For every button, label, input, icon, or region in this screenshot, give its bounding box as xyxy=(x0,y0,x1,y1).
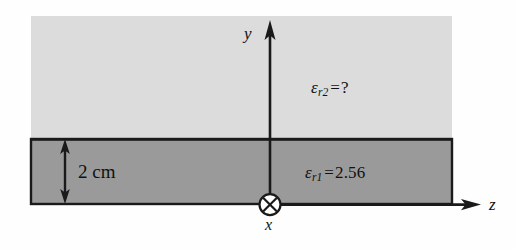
permittivity-label-region2: εr2=? xyxy=(311,79,349,99)
dielectric-slab-diagram: εr2=? εr1=2.56 2 cm y z x xyxy=(0,0,516,250)
permittivity-label-region1: εr1=2.56 xyxy=(305,164,366,184)
z-axis-label: z xyxy=(489,196,496,213)
epsilon-subscript-region2: r2 xyxy=(318,86,328,98)
y-axis-label: y xyxy=(244,25,252,42)
epsilon-symbol-region2: ε xyxy=(311,78,318,97)
upper-medium-region xyxy=(31,16,452,139)
equals-sign-region2: = xyxy=(328,78,341,97)
permittivity-value-region1: 2.56 xyxy=(335,163,366,182)
diagram-canvas xyxy=(0,0,516,250)
equals-sign-region1: = xyxy=(322,163,335,182)
thickness-dimension-label: 2 cm xyxy=(78,162,115,181)
epsilon-symbol-region1: ε xyxy=(305,163,312,182)
x-axis-label: x xyxy=(265,217,272,233)
permittivity-value-region2: ? xyxy=(341,78,349,97)
epsilon-subscript-region1: r1 xyxy=(312,171,322,183)
